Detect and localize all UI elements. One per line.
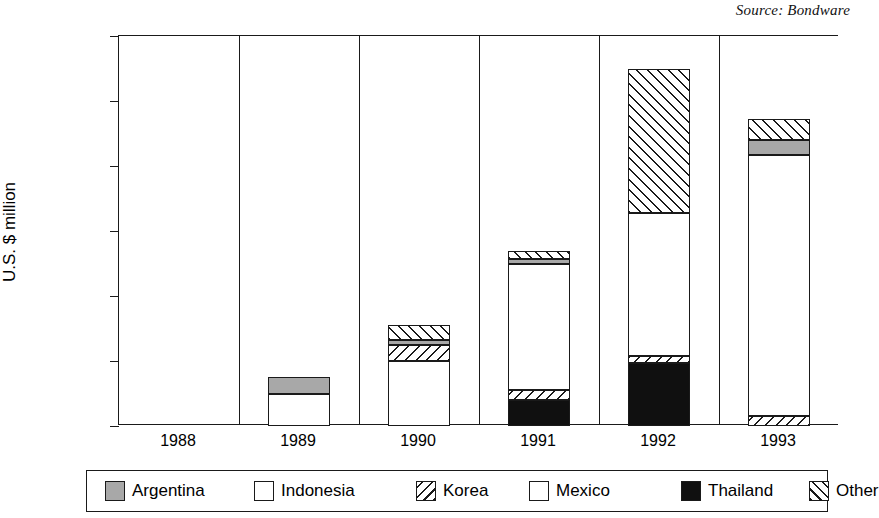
x-axis-tick-label: 1991: [520, 432, 556, 450]
bar-chart: U.S. $ million 0200040006000800010000120…: [0, 0, 861, 460]
legend-item-korea[interactable]: Korea: [416, 481, 488, 501]
bar-segment: [388, 325, 450, 340]
legend-label: Korea: [443, 481, 488, 501]
bar-segment: [748, 416, 810, 426]
bar-segment: [628, 356, 690, 363]
legend-swatch-icon: [809, 481, 829, 501]
bar-segment: [628, 69, 690, 214]
legend-label: Indonesia: [281, 481, 355, 501]
plot-area: [118, 35, 838, 425]
bar-stack: [748, 119, 810, 426]
y-axis-title: U.S. $ million: [0, 182, 20, 282]
x-axis-tick-label: 1992: [640, 432, 676, 450]
y-axis-tick: [110, 426, 119, 427]
bar-segment: [628, 213, 690, 356]
bar-segment: [748, 155, 810, 417]
bar-stack: [628, 69, 690, 427]
legend-item-indonesia[interactable]: Indonesia: [254, 481, 355, 501]
legend-label: Argentina: [132, 481, 205, 501]
bar-segment: [268, 394, 330, 427]
legend-item-argentina[interactable]: Argentina: [105, 481, 205, 501]
x-axis-tick-label: 1993: [760, 432, 796, 450]
x-axis-tick-label: 1989: [280, 432, 316, 450]
legend-swatch-icon: [416, 481, 436, 501]
bar-segment: [508, 400, 570, 426]
legend-label: Thailand: [708, 481, 773, 501]
bar-segment: [508, 264, 570, 391]
bar-segment: [628, 363, 690, 426]
column-separator: [359, 36, 360, 424]
bar-stack: [508, 251, 570, 427]
bar-segment: [508, 251, 570, 259]
bar-segment: [388, 340, 450, 345]
bar-segment: [388, 361, 450, 426]
bar-stack: [268, 377, 330, 426]
legend-label: Other: [836, 481, 879, 501]
column-separator: [719, 36, 720, 424]
legend-item-mexico[interactable]: Mexico: [529, 481, 610, 501]
bar-segment: [388, 345, 450, 361]
bar-stack: [388, 325, 450, 426]
chart-legend: ArgentinaIndonesiaKoreaMexicoThailandOth…: [86, 470, 828, 512]
legend-item-other[interactable]: Other: [809, 481, 879, 501]
legend-label: Mexico: [556, 481, 610, 501]
bar-segment: [748, 119, 810, 140]
y-axis-tick: [110, 296, 119, 297]
bar-segment: [748, 140, 810, 155]
legend-swatch-icon: [254, 481, 274, 501]
column-separator: [599, 36, 600, 424]
y-axis-tick: [110, 166, 119, 167]
bar-segment: [268, 377, 330, 393]
bar-segment: [508, 390, 570, 400]
x-axis-tick-label: 1990: [400, 432, 436, 450]
bar-segment: [508, 259, 570, 264]
column-separator: [239, 36, 240, 424]
legend-swatch-icon: [681, 481, 701, 501]
x-axis-tick-label: 1988: [160, 432, 196, 450]
legend-item-thailand[interactable]: Thailand: [681, 481, 773, 501]
y-axis-tick: [110, 36, 119, 37]
y-axis-tick: [110, 101, 119, 102]
legend-swatch-icon: [529, 481, 549, 501]
y-axis-tick: [110, 231, 119, 232]
y-axis-tick: [110, 361, 119, 362]
legend-swatch-icon: [105, 481, 125, 501]
column-separator: [479, 36, 480, 424]
